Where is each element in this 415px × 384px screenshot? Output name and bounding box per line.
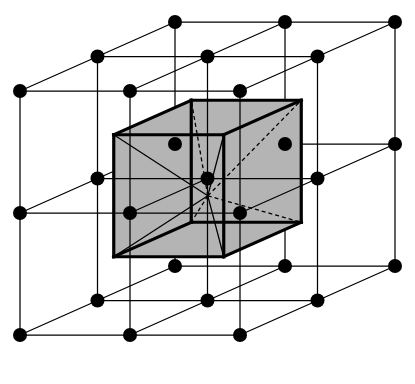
lattice-node (311, 50, 325, 64)
lattice-bond (208, 22, 286, 57)
lattice-node (168, 137, 182, 151)
lattice-bond (20, 179, 98, 214)
lattice-node (278, 137, 292, 151)
lattice-node (13, 84, 27, 98)
lattice-bond (98, 22, 176, 57)
lattice-node (388, 137, 402, 151)
lattice-node (91, 50, 105, 64)
lattice-node (388, 259, 402, 273)
lattice-node (168, 15, 182, 29)
lattice-node (91, 294, 105, 308)
lattice-node (311, 294, 325, 308)
lattice-bond (240, 57, 318, 92)
lattice-node (233, 328, 247, 342)
lattice-node (13, 206, 27, 220)
lattice-node (233, 84, 247, 98)
lattice-node (278, 15, 292, 29)
lattice-node (91, 172, 105, 186)
lattice-bond (98, 266, 176, 301)
lattice-node (201, 50, 215, 64)
lattice-node (233, 206, 247, 220)
lattice-bond (318, 266, 396, 301)
lattice-node-center (201, 172, 215, 186)
lattice-bond (318, 144, 396, 179)
lattice-bond (130, 57, 208, 92)
lattice-node (311, 172, 325, 186)
lattice-node (388, 15, 402, 29)
lattice-bond (20, 57, 98, 92)
lattice-bond (318, 22, 396, 57)
lattice-node (278, 259, 292, 273)
lattice-bond (20, 301, 98, 336)
lattice-node (201, 294, 215, 308)
lattice-node (168, 259, 182, 273)
lattice-bond (208, 266, 286, 301)
lattice-node (123, 206, 137, 220)
lattice-diagram-svg: Cubic lattice with shaded primitive unit… (0, 0, 415, 384)
lattice-bond (130, 301, 208, 336)
lattice-figure: Cubic lattice with shaded primitive unit… (0, 0, 415, 384)
lattice-node (123, 328, 137, 342)
lattice-bond (240, 301, 318, 336)
lattice-node (123, 84, 137, 98)
lattice-node (13, 328, 27, 342)
